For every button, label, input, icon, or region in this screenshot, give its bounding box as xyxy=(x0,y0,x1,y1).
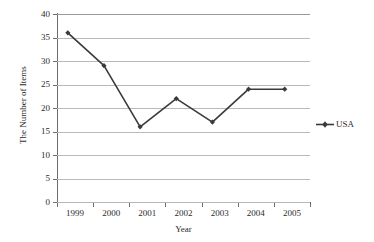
legend-label-usa: USA xyxy=(336,119,354,129)
data-point-marker xyxy=(282,87,287,92)
legend[interactable]: USA xyxy=(316,119,354,129)
legend-marker-diamond-icon xyxy=(316,120,334,129)
series-line-usa xyxy=(68,33,285,127)
x-axis-title: Year xyxy=(57,224,310,234)
line-chart: 0510152025303540 19992000200120022003200… xyxy=(0,0,374,242)
y-axis-title: The Number of Items xyxy=(18,30,28,180)
